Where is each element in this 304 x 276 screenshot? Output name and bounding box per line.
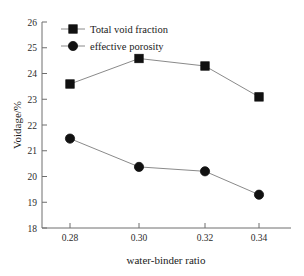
voidage-line-chart: 26 25 24 23 22 21 20 19 18 0.28 0.30 0.3…	[0, 0, 304, 276]
y-tick-label-18: 18	[28, 224, 38, 234]
x-tick-label-0.32: 0.32	[197, 233, 214, 243]
x-axis-title: water-binder ratio	[127, 254, 206, 266]
data-point-effective-porosity-2	[200, 167, 209, 176]
y-tick-label-21: 21	[28, 146, 38, 156]
y-tick-label-22: 22	[28, 121, 38, 131]
legend-marker-square-icon	[69, 25, 77, 33]
data-point-effective-porosity-3	[254, 190, 263, 199]
y-tick-label-20: 20	[28, 172, 38, 182]
data-point-total-void-fraction-1	[135, 54, 143, 62]
legend-marker-circle-icon	[68, 41, 77, 50]
data-point-total-void-fraction-0	[66, 80, 74, 88]
x-tick-label-0.28: 0.28	[62, 233, 79, 243]
legend-label-total-void-fraction: Total void fraction	[90, 24, 169, 35]
legend-entry-total-void-fraction: Total void fraction	[61, 24, 169, 35]
y-tick-label-19: 19	[28, 198, 38, 208]
data-point-effective-porosity-0	[65, 134, 74, 143]
y-tick-label-24: 24	[28, 69, 38, 79]
chart-page: 26 25 24 23 22 21 20 19 18 0.28 0.30 0.3…	[0, 0, 304, 276]
y-tick-label-26: 26	[28, 18, 38, 28]
y-axis-title: Voidage/%	[11, 101, 23, 149]
y-tick-label-23: 23	[28, 95, 38, 105]
legend-label-effective-porosity: effective porosity	[90, 41, 164, 52]
y-axis-tick-labels: 26 25 24 23 22 21 20 19 18	[28, 18, 38, 234]
y-tick-label-25: 25	[28, 43, 38, 53]
x-tick-label-0.30: 0.30	[131, 233, 148, 243]
x-tick-label-0.34: 0.34	[251, 233, 268, 243]
data-point-effective-porosity-1	[134, 162, 143, 171]
data-point-total-void-fraction-3	[255, 93, 263, 101]
data-point-total-void-fraction-2	[201, 62, 209, 70]
